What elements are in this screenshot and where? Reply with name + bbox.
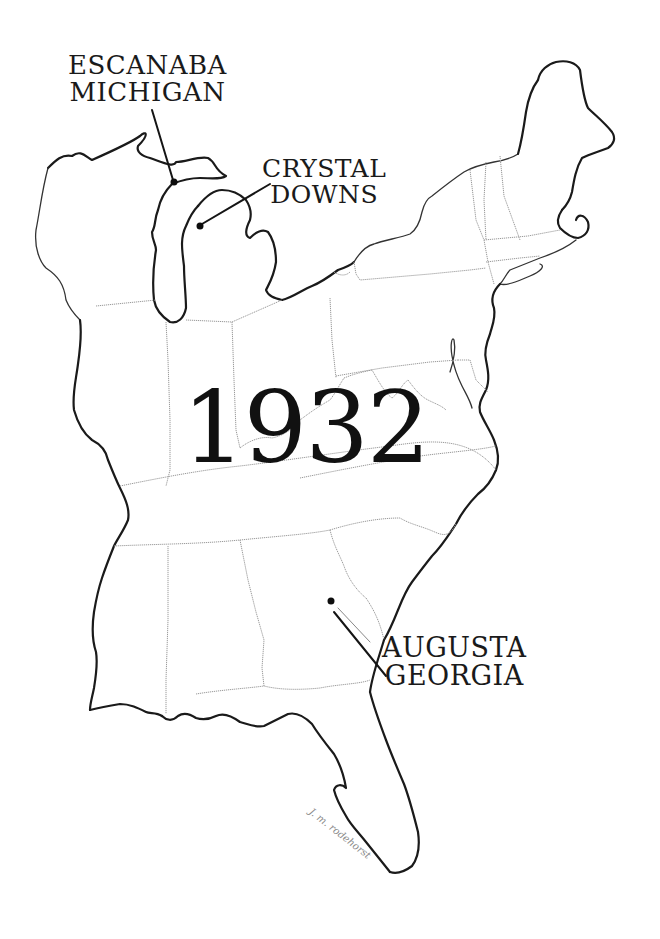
gulf-coast-west bbox=[90, 704, 162, 716]
border-pa-ny bbox=[334, 262, 486, 280]
augusta-georgia-label: AUGUSTA GEORGIA bbox=[382, 634, 527, 691]
massachusetts-cape-cod bbox=[558, 210, 589, 238]
augusta-marker-icon bbox=[328, 598, 335, 605]
chesapeake-bay bbox=[450, 339, 472, 408]
carolinas-coast bbox=[384, 470, 496, 640]
augusta-label-line-1: AUGUSTA bbox=[382, 634, 527, 662]
crystal-downs-label-line-2: DOWNS bbox=[262, 182, 386, 208]
border-ma-ct bbox=[484, 230, 560, 262]
border-wi-il bbox=[96, 300, 156, 306]
mississippi-river-edge bbox=[73, 320, 128, 710]
escanaba-leader-line bbox=[152, 110, 173, 180]
border-mi-in-oh bbox=[186, 300, 282, 322]
new-england-coast bbox=[518, 61, 614, 210]
mid-atlantic-coast bbox=[479, 284, 500, 470]
crystal-downs-leader-line bbox=[202, 184, 270, 224]
border-al-ga bbox=[240, 540, 264, 686]
border-oh-pa bbox=[330, 298, 336, 378]
border-fl-north bbox=[196, 680, 370, 694]
escanaba-label-line-1: ESCANABA bbox=[68, 52, 227, 79]
border-ny-vt bbox=[470, 170, 494, 284]
lake-michigan-west-shore bbox=[152, 184, 198, 322]
wisconsin-west-edge bbox=[36, 168, 80, 320]
lake-erie-shore bbox=[282, 262, 354, 300]
escanaba-label-line-2: MICHIGAN bbox=[68, 79, 227, 106]
border-il-in bbox=[166, 322, 170, 486]
upper-midwest-coast bbox=[48, 133, 226, 184]
crystal-downs-label: CRYSTAL DOWNS bbox=[262, 156, 386, 209]
crystal-downs-label-line-1: CRYSTAL bbox=[262, 156, 386, 182]
border-ga-sc bbox=[330, 530, 384, 640]
border-vt-nh bbox=[484, 156, 520, 240]
border-nc-sc bbox=[330, 518, 456, 535]
escanaba-michigan-label: ESCANABA MICHIGAN bbox=[68, 52, 227, 107]
border-tn-south bbox=[114, 530, 330, 546]
escanaba-marker-icon bbox=[171, 179, 178, 186]
crystal-downs-marker-icon bbox=[197, 223, 204, 230]
year-title: 1932 bbox=[182, 378, 429, 478]
long-island-sound bbox=[500, 240, 576, 285]
border-ms-al bbox=[166, 546, 168, 714]
augusta-label-line-2: GEORGIA bbox=[382, 662, 527, 690]
